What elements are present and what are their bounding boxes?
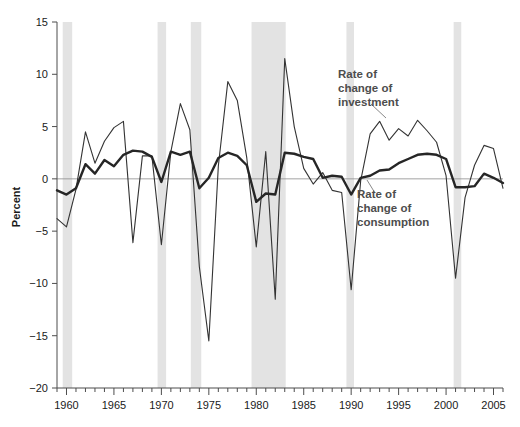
y-axis-title: Percent (10, 186, 22, 227)
y-axis-title-group: Percent (10, 186, 22, 227)
consumption-label: Rate ofchange ofconsumption (357, 188, 429, 228)
recession-band (252, 22, 286, 388)
y-tick-label: 15 (36, 16, 48, 28)
recession-band (63, 22, 72, 388)
x-tick-label: 1990 (339, 399, 363, 411)
chart-canvas: 151050−5−10−15−2019601965197019751980198… (0, 0, 520, 427)
y-tick-label: 0 (42, 173, 48, 185)
x-tick-label: 1980 (244, 399, 268, 411)
x-tick-label: 1985 (291, 399, 315, 411)
x-tick-label: 2000 (434, 399, 458, 411)
y-tick-label: −10 (29, 277, 48, 289)
y-tick-label: −5 (35, 225, 48, 237)
annotation-line: Rate of (357, 188, 396, 200)
annotation-line: change of (338, 82, 392, 94)
x-tick-label: 2005 (481, 399, 505, 411)
x-tick-label: 1965 (102, 399, 126, 411)
investment-label: Rate ofchange ofinvestment (338, 68, 399, 108)
recession-band (191, 22, 201, 388)
x-tick-label: 1975 (197, 399, 221, 411)
y-tick-label: 5 (42, 121, 48, 133)
y-tick-label: 10 (36, 68, 48, 80)
x-tick-label: 1995 (386, 399, 410, 411)
annotation-line: change of (357, 202, 411, 214)
x-tick-label: 1960 (54, 399, 78, 411)
annotation-line: Rate of (338, 68, 377, 80)
recession-band (454, 22, 462, 388)
y-tick-label: −15 (29, 330, 48, 342)
annotation-line: consumption (357, 216, 429, 228)
recession-band (158, 22, 167, 388)
x-tick-label: 1970 (149, 399, 173, 411)
investment-consumption-growth-chart: 151050−5−10−15−2019601965197019751980198… (0, 0, 520, 427)
annotation-line: investment (338, 96, 399, 108)
y-tick-label: −20 (29, 382, 48, 394)
